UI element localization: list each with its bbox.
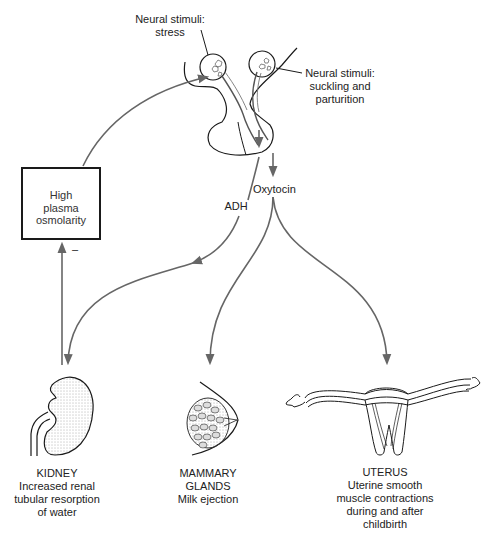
kidney-illustration — [31, 377, 93, 456]
kidney-label: KIDNEY Increased renal tubular resorptio… — [5, 467, 109, 519]
diagram-canvas — [0, 0, 496, 538]
uterus-illustration — [286, 377, 480, 455]
hormone-adh-label: ADH — [222, 200, 250, 213]
arrow-oxytocin-to-mammary — [210, 197, 273, 363]
negative-feedback-sign: – — [70, 243, 80, 256]
arrow-oxytocin-to-uterus — [273, 197, 387, 363]
arrow-adh-to-kidney-b — [68, 263, 193, 363]
arrow-osmolarity-to-hypothalamus — [83, 77, 207, 166]
arrows — [62, 77, 387, 365]
hormone-oxytocin-label: Oxytocin — [253, 183, 295, 196]
mammary-label: MAMMARY GLANDS Milk ejection — [168, 467, 248, 506]
stimulus-stress-label: Neural stimuli: stress — [130, 13, 210, 39]
stimulus-suckling-label: Neural stimuli: suckling and parturition — [302, 67, 378, 106]
high-plasma-osmolarity-box: High plasma osmolarity — [21, 167, 101, 240]
arrow-adh-to-kidney-a — [193, 216, 239, 263]
mammary-illustration — [187, 382, 238, 455]
uterus-label: UTERUS Uterine smooth muscle contraction… — [325, 466, 445, 531]
pituitary-illustration — [184, 30, 302, 155]
